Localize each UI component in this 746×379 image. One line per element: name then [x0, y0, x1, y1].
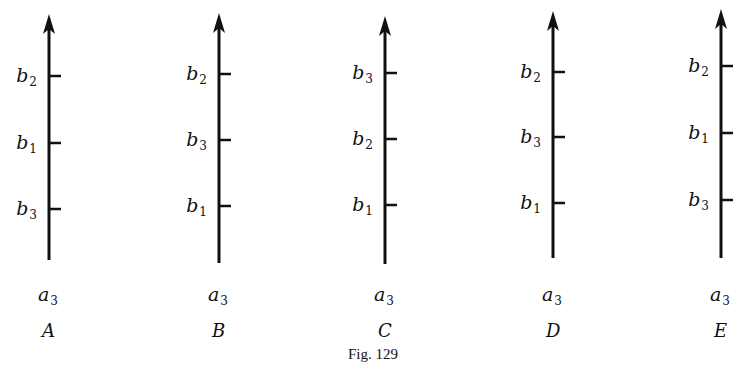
- axis-label-a3: a3: [208, 285, 228, 307]
- panel-letter-a: A: [42, 322, 55, 340]
- panel-e: [715, 9, 733, 258]
- tick-label-b1: b1: [186, 196, 207, 218]
- panel-b: [213, 13, 231, 263]
- panel-c: [379, 16, 397, 264]
- figure-caption: Fig. 129: [0, 346, 746, 363]
- tick-label-b1: b1: [520, 193, 541, 215]
- tick-label-b3: b3: [16, 199, 37, 221]
- tick-label-b3: b3: [688, 190, 709, 212]
- panel-a: [43, 14, 61, 260]
- panel-letter-b: B: [212, 322, 225, 340]
- tick-label-b2: b2: [16, 66, 37, 88]
- tick-label-b3: b3: [352, 63, 373, 85]
- panel-letter-d: D: [546, 322, 560, 340]
- axis-label-a3: a3: [710, 285, 730, 307]
- panel-d: [547, 11, 565, 258]
- panel-letter-c: C: [378, 322, 392, 340]
- tick-label-b2: b2: [688, 56, 709, 78]
- tick-label-b1: b1: [352, 195, 373, 217]
- tick-label-b1: b1: [688, 123, 709, 145]
- tick-label-b3: b3: [186, 130, 207, 152]
- panel-letter-e: E: [714, 322, 727, 340]
- tick-label-b1: b1: [16, 133, 37, 155]
- axis-label-a3: a3: [542, 285, 562, 307]
- tick-label-b2: b2: [520, 62, 541, 84]
- axes-layer: [0, 0, 746, 379]
- tick-label-b3: b3: [520, 127, 541, 149]
- axis-label-a3: a3: [374, 285, 394, 307]
- axis-label-a3: a3: [38, 285, 58, 307]
- figure: b2b1b3a3Ab2b3b1a3Bb3b2b1a3Cb2b3b1a3Db2b1…: [0, 0, 746, 379]
- tick-label-b2: b2: [352, 129, 373, 151]
- tick-label-b2: b2: [186, 64, 207, 86]
